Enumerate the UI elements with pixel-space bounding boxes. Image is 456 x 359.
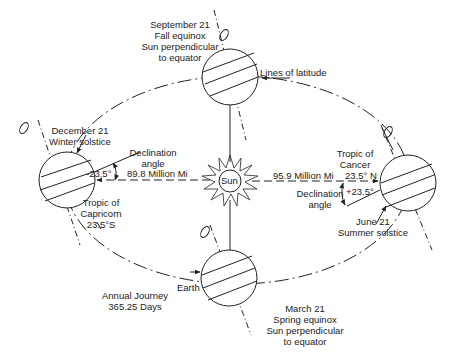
orbit-diagram: September 21 Fall equinox Sun perpendicu… xyxy=(0,0,456,359)
march-event: Spring equinox xyxy=(250,314,360,325)
september-event: Fall equinox xyxy=(125,30,235,41)
march-note-1: Sun perpendicular xyxy=(250,325,360,336)
tropic-capricorn-line3: 23.5°S xyxy=(76,219,126,230)
tropic-capricorn-label: Tropic of Capricorn 23.5°S xyxy=(76,197,126,230)
annual-journey-label: Annual Journey 365.25 Days xyxy=(100,290,170,312)
lines-of-latitude-label: Lines of latitude xyxy=(260,67,327,78)
december-date: December 21 xyxy=(40,125,120,136)
tropic-cancer-label: Tropic of Cancer xyxy=(330,148,380,170)
september-label: September 21 Fall equinox Sun perpendicu… xyxy=(125,19,235,63)
earth-label: Earth xyxy=(177,282,200,293)
march-label: March 21 Spring equinox Sun perpendicula… xyxy=(250,303,360,347)
december-label: December 21 Winter solstice xyxy=(40,125,120,147)
declination-right-value: +23.5° xyxy=(346,186,374,197)
december-event: Winter solstice xyxy=(40,136,120,147)
tropic-cancer-line1: Tropic of xyxy=(330,148,380,159)
declination-right-line2: angle xyxy=(290,199,350,210)
declination-left-label: Declination angle xyxy=(118,147,188,169)
tropic-cancer-value: 23.5° N xyxy=(345,170,377,181)
september-note-2: to equator xyxy=(125,52,235,63)
tropic-cancer-line2: Cancer xyxy=(330,159,380,170)
tropic-capricorn-line2: Capricorn xyxy=(76,208,126,219)
tropic-capricorn-line1: Tropic of xyxy=(76,197,126,208)
distance-left-label: 89.8 Million Mi xyxy=(127,168,188,179)
declination-left-value: -23.5° xyxy=(86,168,111,179)
june-label: June 21 Summer solstice xyxy=(328,216,418,238)
distance-right-label: 95.9 Million Mi xyxy=(273,170,334,181)
declination-left-line1: Declination xyxy=(118,147,188,158)
sun-label: Sun xyxy=(221,175,238,186)
march-date: March 21 xyxy=(250,303,360,314)
declination-right-line1: Declination xyxy=(290,188,350,199)
annual-journey-line2: 365.25 Days xyxy=(100,301,170,312)
june-date: June 21 xyxy=(328,216,418,227)
march-note-2: to equator xyxy=(250,336,360,347)
june-event: Summer solstice xyxy=(328,227,418,238)
annual-journey-line1: Annual Journey xyxy=(100,290,170,301)
september-note-1: Sun perpendicular xyxy=(125,41,235,52)
declination-right-label: Declination angle xyxy=(290,188,350,210)
earth-march-icon xyxy=(199,225,257,335)
september-date: September 21 xyxy=(125,19,235,30)
